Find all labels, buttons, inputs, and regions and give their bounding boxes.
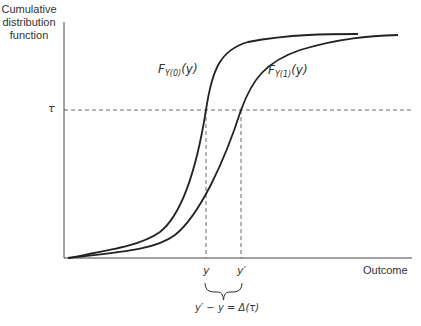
f-y0-label-arg: (y) [181, 62, 197, 76]
cdf-diagram [0, 0, 421, 326]
tau-label: τ [48, 102, 55, 115]
x-axis-title: Outcome [363, 264, 408, 276]
curve-f-y0 [68, 34, 358, 258]
y-axis-title-line2: distribution [0, 16, 58, 29]
f-y0-label: FY(0)(y) [158, 62, 198, 78]
brace-icon [205, 283, 242, 300]
tick-y: y [203, 264, 210, 277]
tick-y-prime: y′ [237, 264, 246, 277]
y-axis-title: Cumulative distribution function [0, 3, 58, 42]
f-y0-label-main: F [158, 62, 165, 76]
y-axis-title-line3: function [0, 29, 58, 42]
f-y1-label-main: F [268, 63, 275, 77]
f-y1-label-sub: Y(1) [275, 70, 291, 79]
brace-equation: y′ − y = Δ(τ) [195, 302, 259, 313]
curve-f-y1 [68, 35, 398, 258]
f-y1-label-arg: (y) [291, 63, 307, 77]
f-y0-label-sub: Y(0) [165, 69, 181, 78]
f-y1-label: FY(1)(y) [268, 63, 308, 79]
y-axis-title-line1: Cumulative [0, 3, 58, 16]
